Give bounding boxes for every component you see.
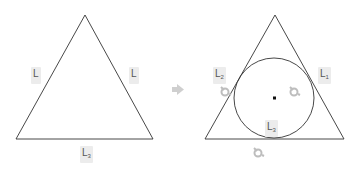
diagram-canvas: [0, 0, 359, 171]
incenter-dot: [273, 97, 276, 100]
l1-label: L1: [318, 67, 331, 84]
right-side-label: L: [129, 67, 139, 84]
left-side-label: L: [31, 67, 41, 84]
l2-label: L2: [213, 67, 226, 84]
eye-icon: [254, 148, 264, 157]
right-arrow-icon: [172, 84, 184, 95]
l3-label: L3: [265, 120, 278, 137]
eye-icon: [221, 87, 231, 96]
bottom-side-label: L3: [80, 146, 93, 163]
eye-icon: [290, 87, 300, 96]
